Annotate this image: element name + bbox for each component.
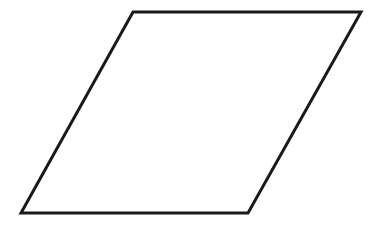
parallelogram-shape bbox=[21, 12, 361, 213]
diagram-canvas bbox=[0, 0, 376, 230]
